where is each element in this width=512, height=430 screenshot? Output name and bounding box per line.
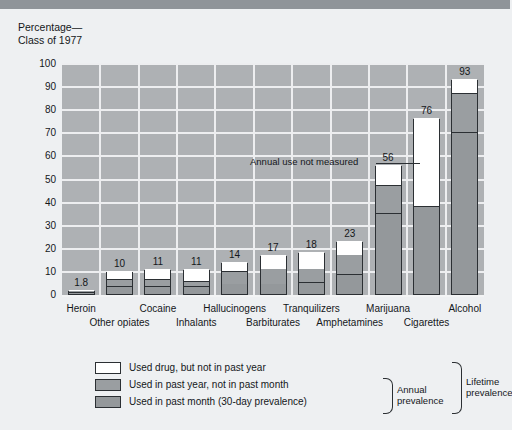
plot-area: 1.810111114171823567693 Annual use not m… <box>62 64 484 295</box>
bar-segment <box>299 282 324 294</box>
bar-segment <box>145 269 170 279</box>
bar-segment <box>337 274 362 294</box>
grid-line-vertical <box>330 64 332 295</box>
bar-segment <box>107 279 132 286</box>
grid-line-vertical <box>445 64 447 295</box>
lifetime-prevalence-brace <box>452 362 462 414</box>
y-axis-tick-label: 50 <box>0 174 56 185</box>
bar-column[interactable]: 11 <box>183 64 210 295</box>
bar-segment <box>107 271 132 279</box>
y-axis-tick-label: 0 <box>0 289 56 300</box>
bar-segment <box>184 269 209 282</box>
grid-line-vertical <box>406 64 408 295</box>
bar-value-label: 18 <box>288 239 334 250</box>
y-axis-tick-label: 30 <box>0 220 56 231</box>
bar-segment <box>222 271 247 284</box>
y-axis-tick-label: 70 <box>0 127 56 138</box>
y-axis-tick-label: 60 <box>0 150 56 161</box>
annual-prevalence-brace <box>383 378 393 414</box>
legend-swatch <box>95 396 121 408</box>
x-axis-label: Cigarettes <box>381 317 471 328</box>
annual-prevalence-brace-label: Annual prevalence <box>397 384 443 406</box>
bar-segment <box>299 252 324 268</box>
stacked-bar[interactable] <box>336 242 363 295</box>
y-axis-tick-label: 10 <box>0 266 56 277</box>
legend-label: Used drug, but not in past year <box>129 362 266 373</box>
bar-segment <box>261 269 286 284</box>
bar-segment <box>452 79 477 93</box>
stacked-bar[interactable] <box>375 166 402 295</box>
stacked-bar[interactable] <box>260 256 287 295</box>
bar-value-label: 1.8 <box>58 277 104 288</box>
bar-column[interactable]: 10 <box>106 64 133 295</box>
chart-title: Percentage— Class of 1977 <box>18 21 82 47</box>
bar-column[interactable]: 18 <box>298 64 325 295</box>
legend-swatch <box>95 379 121 391</box>
grid-line-vertical <box>368 64 370 295</box>
stacked-bar[interactable] <box>68 291 95 295</box>
stacked-bar[interactable] <box>183 270 210 295</box>
bar-column[interactable]: 1.8 <box>68 64 95 295</box>
bar-segment <box>337 255 362 275</box>
y-axis-tick-label: 100 <box>0 58 56 69</box>
stacked-bar[interactable] <box>106 272 133 295</box>
bar-segment <box>376 165 401 186</box>
lifetime-prevalence-brace-label: Lifetime prevalence <box>466 376 512 398</box>
grid-line-vertical <box>291 64 293 295</box>
bar-value-label: 76 <box>403 105 449 116</box>
bar-segment <box>145 279 170 286</box>
bar-segment <box>261 255 286 269</box>
bar-value-label: 23 <box>327 228 373 239</box>
stacked-bar[interactable] <box>144 270 171 295</box>
bar-column[interactable]: 76 <box>413 64 440 295</box>
stacked-bar[interactable] <box>298 253 325 295</box>
bar-segment <box>376 213 401 294</box>
stacked-bar[interactable] <box>413 119 440 295</box>
bar-column[interactable]: 93 <box>451 64 478 295</box>
bar-column[interactable]: 23 <box>336 64 363 295</box>
legend-swatch <box>95 362 121 374</box>
bar-segment <box>145 286 170 294</box>
annotation-leader-line <box>376 163 420 164</box>
bar-column[interactable]: 11 <box>144 64 171 295</box>
y-axis-tick-label: 20 <box>0 243 56 254</box>
stacked-bar[interactable] <box>451 80 478 295</box>
bar-column[interactable]: 17 <box>260 64 287 295</box>
bar-segment <box>261 284 286 294</box>
bar-segment <box>299 269 324 283</box>
bar-value-label: 56 <box>365 152 411 163</box>
legend-label: Used in past month (30-day prevalence) <box>129 396 307 407</box>
bar-segment <box>414 206 439 294</box>
bar-column[interactable]: 14 <box>221 64 248 295</box>
chart-figure: Percentage— Class of 1977 01020304050607… <box>0 9 510 430</box>
y-axis-tick-label: 40 <box>0 197 56 208</box>
annotation-text: Annual use not measured <box>250 156 358 167</box>
axis-baseline <box>62 295 484 297</box>
bar-segment <box>184 286 209 294</box>
legend-label: Used in past year, not in past month <box>129 379 289 390</box>
bar-segment <box>222 284 247 294</box>
bar-segment <box>452 132 477 294</box>
bar-segment <box>184 281 209 286</box>
bar-value-label: 93 <box>442 66 488 77</box>
y-axis-tick-label: 80 <box>0 104 56 115</box>
grid-line-vertical <box>253 64 255 295</box>
x-axis-label: Alcohol <box>420 303 510 314</box>
bar-segment <box>337 241 362 255</box>
bar-segment <box>452 93 477 132</box>
bar-column[interactable]: 56 <box>375 64 402 295</box>
bar-segment <box>376 185 401 213</box>
stacked-bar[interactable] <box>221 263 248 295</box>
bar-segment <box>69 290 94 291</box>
bar-segment <box>107 286 132 294</box>
y-axis-tick-label: 90 <box>0 81 56 92</box>
bar-segment <box>222 262 247 271</box>
top-band <box>0 0 510 9</box>
